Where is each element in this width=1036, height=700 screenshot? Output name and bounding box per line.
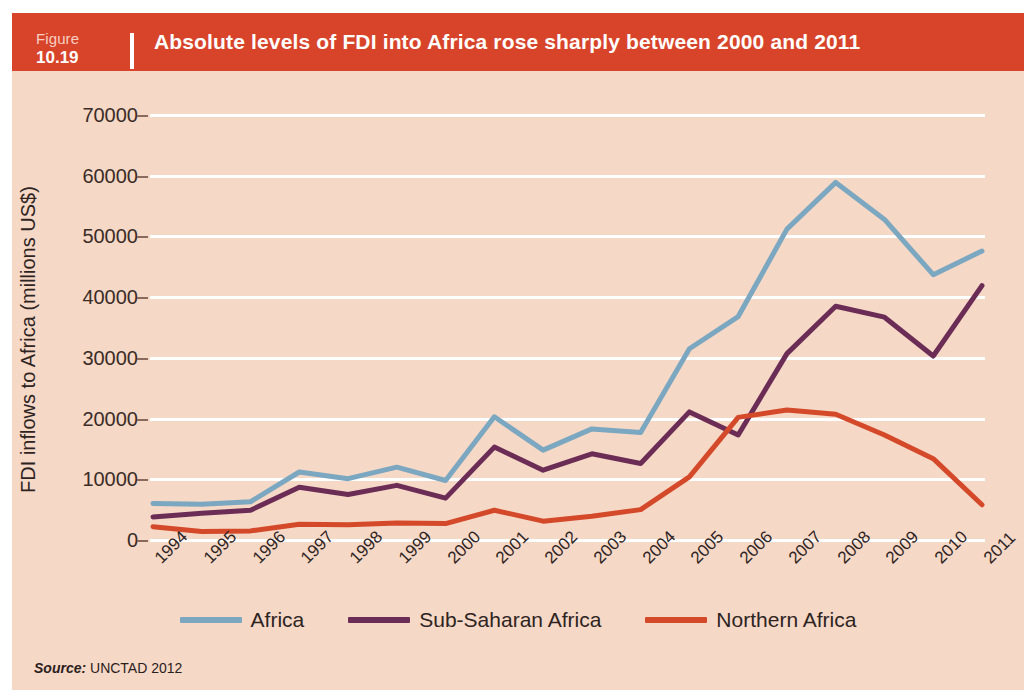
y-axis-tick: [137, 479, 148, 481]
source-note: Source: UNCTAD 2012: [34, 660, 182, 676]
series-lines: [150, 115, 985, 540]
series-line: [153, 286, 982, 517]
y-axis-tick-label: 40000: [82, 286, 138, 309]
figure-container: Figure 10.19 Absolute levels of FDI into…: [0, 0, 1036, 700]
y-axis-tick: [137, 236, 148, 238]
legend-item[interactable]: Africa: [180, 608, 305, 632]
y-axis-tick-label: 50000: [82, 225, 138, 248]
y-axis-tick: [137, 297, 148, 299]
y-axis-tick: [137, 115, 148, 117]
y-axis-tick: [137, 176, 148, 178]
legend-item[interactable]: Sub-Saharan Africa: [348, 608, 601, 632]
legend-swatch: [348, 617, 410, 623]
legend-label: Africa: [251, 608, 305, 632]
legend-label: Northern Africa: [716, 608, 856, 632]
source-value: UNCTAD 2012: [90, 660, 182, 676]
y-axis-tick-label: 20000: [82, 407, 138, 430]
y-axis-tick: [137, 419, 148, 421]
y-axis-tick-label: 70000: [82, 104, 138, 127]
legend-item[interactable]: Northern Africa: [645, 608, 856, 632]
title-divider: [130, 33, 134, 69]
figure-title-bar: Figure 10.19 Absolute levels of FDI into…: [12, 13, 1024, 71]
legend-swatch: [180, 617, 242, 623]
y-axis-tick: [137, 540, 148, 542]
chart-legend: AfricaSub-Saharan AfricaNorthern Africa: [0, 604, 1036, 636]
source-label: Source:: [34, 660, 86, 676]
plot-area: [150, 115, 985, 540]
series-line: [153, 182, 982, 504]
figure-word: Figure: [36, 31, 120, 48]
y-axis-tick-label: 10000: [82, 468, 138, 491]
series-line: [153, 410, 982, 531]
y-axis-tick-label: 30000: [82, 346, 138, 369]
figure-title: Absolute levels of FDI into Africa rose …: [154, 13, 860, 71]
y-axis-tick-labels: 700006000050000400003000020000100000: [0, 115, 146, 540]
legend-swatch: [645, 617, 707, 623]
y-axis-tick: [137, 358, 148, 360]
y-axis-tick-label: 60000: [82, 164, 138, 187]
legend-label: Sub-Saharan Africa: [419, 608, 601, 632]
